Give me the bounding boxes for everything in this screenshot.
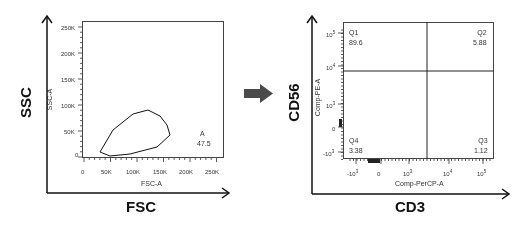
left-outer-axes (42, 16, 229, 198)
right-outer-axes (307, 16, 509, 199)
figure-overlay (0, 0, 526, 225)
transition-arrow-icon (244, 84, 273, 103)
right-axis-ticks (338, 30, 490, 164)
gate-a-polygon[interactable] (100, 110, 170, 156)
left-axis-ticks (78, 27, 217, 162)
